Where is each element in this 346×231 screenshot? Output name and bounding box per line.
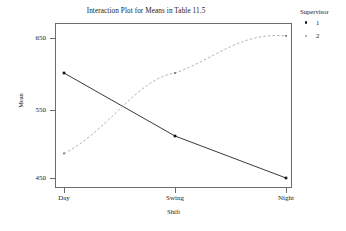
series-line-1	[64, 73, 286, 178]
chart-canvas: Interaction Plot for Means in Table 11.5…	[0, 0, 346, 231]
data-point-s1-day[interactable]	[63, 72, 66, 75]
legend: Supervisor 1 2	[299, 8, 346, 41]
legend-marker-series1-icon	[299, 21, 313, 24]
data-point-s2-swing[interactable]	[174, 72, 176, 74]
data-point-s1-night[interactable]	[285, 177, 288, 180]
data-point-s2-day[interactable]	[63, 153, 65, 155]
series-layer	[0, 0, 346, 231]
legend-item-2[interactable]: 2	[299, 30, 346, 41]
legend-label-series1: 1	[316, 19, 319, 26]
legend-label-series2: 2	[316, 32, 319, 39]
legend-title: Supervisor	[300, 8, 346, 15]
data-point-s1-swing[interactable]	[174, 135, 177, 138]
legend-marker-series2-icon	[299, 35, 313, 37]
data-point-s2-night[interactable]	[285, 35, 287, 37]
legend-item-1[interactable]: 1	[299, 17, 346, 28]
